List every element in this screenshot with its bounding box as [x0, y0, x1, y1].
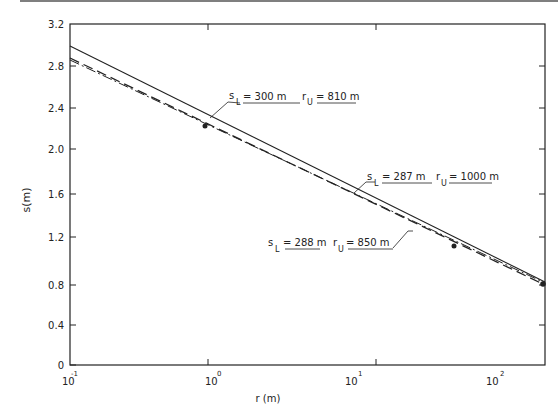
y-axis-label: s(m) — [20, 187, 33, 212]
y-tick-label: 1.6 — [48, 189, 64, 200]
x-tick-exp: 1 — [358, 370, 362, 378]
svg-text:U: U — [307, 98, 313, 107]
x-tick-base: 10 — [345, 376, 358, 387]
y-tick-label: 2.0 — [48, 144, 64, 155]
data-marker — [203, 124, 208, 129]
y-tick-label: 2.4 — [48, 103, 64, 114]
svg-text:L: L — [374, 179, 379, 188]
annotation-287m: s L = 287 m r U = 1000 m — [354, 171, 499, 193]
y-tick-label: 2.8 — [48, 61, 64, 72]
y-tick-label: 3.2 — [48, 19, 64, 30]
svg-text:U: U — [338, 245, 344, 254]
data-marker — [452, 244, 457, 249]
svg-text:U: U — [441, 179, 447, 188]
annotation-300m: s L = 300 m r U = 810 m — [210, 90, 360, 118]
y-tick-label: 0.4 — [48, 320, 64, 331]
chart: 0 0.4 0.8 1.2 1.6 2.0 2.4 2.8 3.2 s(m) 1… — [0, 0, 558, 417]
x-tick-exp: 0 — [217, 370, 221, 378]
annotation-288m: s L = 288 m r U = 850 m — [268, 231, 413, 254]
x-tick-exp: -1 — [71, 370, 78, 378]
y-tick-label: 0.8 — [48, 280, 64, 291]
svg-text:= 810 m: = 810 m — [316, 91, 360, 102]
x-axis-label: r (m) — [256, 393, 281, 404]
svg-text:s: s — [268, 237, 273, 248]
svg-text:s: s — [367, 171, 372, 182]
data-marker — [540, 281, 546, 287]
x-tick-base: 10 — [205, 376, 218, 387]
plot-frame — [70, 24, 545, 365]
svg-text:= 288 m: = 288 m — [283, 237, 327, 248]
x-axis: 10 -1 10 0 10 1 10 2 — [62, 24, 504, 387]
x-tick-base: 10 — [486, 376, 499, 387]
svg-text:= 300 m: = 300 m — [243, 91, 287, 102]
svg-text:L: L — [236, 98, 241, 107]
y-tick-label: 1.2 — [48, 232, 64, 243]
x-tick-exp: 2 — [500, 370, 504, 378]
svg-text:= 1000 m: = 1000 m — [449, 171, 499, 182]
svg-text:= 850 m: = 850 m — [346, 237, 390, 248]
svg-text:= 287 m: = 287 m — [382, 171, 426, 182]
y-tick-label: 0 — [58, 360, 64, 371]
svg-text:s: s — [229, 90, 234, 101]
svg-text:L: L — [275, 245, 280, 254]
